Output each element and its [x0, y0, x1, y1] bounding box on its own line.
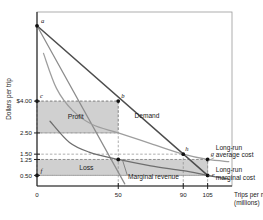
ytick-label-0: $4.00	[17, 97, 33, 104]
lrac-label-line2: average cost	[216, 151, 254, 159]
y-axis-label: Dollars per trip	[5, 78, 13, 120]
profit-region-label: Profit	[68, 113, 84, 120]
x-axis-label-line1: Trips per month	[234, 191, 263, 199]
chart-svg: abcefgh$4.002.501.501.250.5005090105Doll…	[0, 0, 263, 220]
x-axis-label-line2: (millions)	[234, 199, 260, 207]
ytick-label-4: 0.50	[20, 172, 33, 179]
ytick-label-1: 2.50	[20, 129, 33, 136]
xtick-label-2: 90	[180, 191, 187, 198]
loss-region	[37, 159, 208, 175]
point-label-c: c	[40, 92, 43, 99]
point-marker-g	[206, 158, 210, 162]
xtick-label-3: 105	[202, 191, 213, 198]
point-label-e: e	[212, 171, 215, 178]
point-marker-e	[206, 173, 210, 177]
ytick-label-3: 1.25	[20, 156, 33, 163]
point-marker-b	[116, 99, 120, 103]
marginal-revenue-label: Marginal revenue	[128, 173, 179, 181]
point-marker-d	[116, 158, 120, 162]
lrmc-label-line2: marginal cost	[216, 174, 255, 182]
loss-region-label: Loss	[79, 164, 94, 171]
xtick-label-1: 50	[115, 191, 122, 198]
point-marker-h	[181, 152, 185, 156]
point-marker-a	[35, 24, 39, 28]
xtick-label-0: 0	[35, 191, 39, 198]
natural-monopoly-chart: abcefgh$4.002.501.501.250.5005090105Doll…	[0, 0, 263, 220]
demand-label: Demand	[135, 112, 160, 119]
